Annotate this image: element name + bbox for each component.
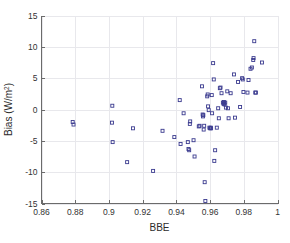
scatter-point xyxy=(211,112,214,115)
scatter-point xyxy=(193,155,196,158)
x-tick-labels: 0.860.880.90.920.940.960.981 xyxy=(33,207,280,217)
scatter-point xyxy=(189,120,192,123)
scatter-point xyxy=(179,142,182,145)
scatter-point xyxy=(111,104,114,107)
x-tick-label: 0.92 xyxy=(134,207,151,217)
scatter-point xyxy=(161,129,164,132)
scatter-point xyxy=(203,124,206,127)
scatter-point xyxy=(260,61,263,64)
scatter-point xyxy=(178,99,181,102)
y-tick-label: 15 xyxy=(28,11,38,21)
scatter-point xyxy=(186,141,189,144)
grid-lines xyxy=(42,16,279,205)
scatter-point xyxy=(182,112,185,115)
scatter-point xyxy=(72,123,75,126)
scatter-point xyxy=(210,94,213,97)
scatter-point xyxy=(229,92,232,95)
scatter-point xyxy=(202,128,205,131)
scatter-point xyxy=(198,124,201,127)
scatter-point xyxy=(215,126,218,129)
scatter-point xyxy=(213,159,216,162)
scatter-point xyxy=(226,107,229,110)
y-tick-labels: -15-10-5051015 xyxy=(25,11,38,209)
scatter-point xyxy=(110,121,113,124)
y-tick-label: 10 xyxy=(28,42,38,52)
scatter-point xyxy=(217,107,220,110)
scatter-point xyxy=(220,92,223,95)
scatter-point xyxy=(132,127,135,130)
scatter-point xyxy=(237,80,240,83)
scatter-point xyxy=(192,139,195,142)
x-tick-label: 0.96 xyxy=(202,207,219,217)
scatter-plot: 0.860.880.90.920.940.960.981 -15-10-5051… xyxy=(0,0,290,243)
figure-container: 0.860.880.90.920.940.960.981 -15-10-5051… xyxy=(0,0,290,243)
x-tick-label: 0.88 xyxy=(67,207,84,217)
scatter-point xyxy=(226,90,229,93)
y-tick-label: -10 xyxy=(25,167,38,177)
scatter-point xyxy=(234,116,237,119)
y-tick-label: -15 xyxy=(25,199,38,209)
scatter-point xyxy=(214,149,217,152)
scatter-point xyxy=(111,141,114,144)
scatter-point xyxy=(233,73,236,76)
scatter-point xyxy=(247,79,250,82)
y-tick-label: 0 xyxy=(33,105,38,115)
scatter-point xyxy=(239,105,242,108)
scatter-point xyxy=(253,40,256,43)
y-tick-label: -5 xyxy=(30,136,38,146)
scatter-point xyxy=(200,85,203,88)
scatter-point xyxy=(212,62,215,65)
scatter-point xyxy=(217,117,220,120)
scatter-point xyxy=(207,105,210,108)
scatter-point xyxy=(173,136,176,139)
scatter-point xyxy=(126,161,129,164)
x-tick-label: 0.94 xyxy=(168,207,185,217)
scatter-point xyxy=(152,169,155,172)
x-tick-label: 0.98 xyxy=(236,207,253,217)
scatter-point xyxy=(227,117,230,120)
y-axis-title: Bias (W/m2) xyxy=(3,83,15,136)
scatter-point xyxy=(219,86,222,89)
scatter-point xyxy=(242,90,245,93)
y-tick-label: 5 xyxy=(33,73,38,83)
x-tick-label: 1 xyxy=(275,207,280,217)
data-markers xyxy=(71,40,263,203)
x-tick-label: 0.9 xyxy=(103,207,115,217)
x-axis-title: BBE xyxy=(149,222,169,233)
scatter-point xyxy=(246,91,249,94)
axis-lines xyxy=(42,16,278,204)
scatter-point xyxy=(212,78,215,81)
scatter-point xyxy=(204,199,207,202)
scatter-point xyxy=(203,181,206,184)
